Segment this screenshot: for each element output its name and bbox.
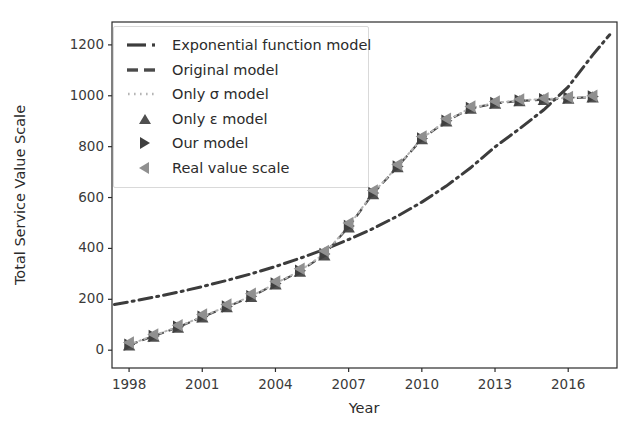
legend-item: Original model <box>122 58 360 83</box>
legend-label-our-model: Our model <box>168 135 248 151</box>
dash-dot-line-icon <box>122 35 168 55</box>
legend-label-real-value: Real value scale <box>168 160 289 176</box>
y-tick-label: 1000 <box>58 87 104 103</box>
y-axis-label: Total Service Value Scale <box>12 105 28 285</box>
chart-figure: Total Service Value Scale Year 020040060… <box>0 0 641 431</box>
legend-item: Only σ model <box>122 82 360 107</box>
y-tick-label: 200 <box>58 290 104 306</box>
y-tick-label: 0 <box>58 341 104 357</box>
triangle-right-marker-icon <box>122 133 168 153</box>
dotted-line-icon <box>122 84 168 104</box>
x-tick-label: 2016 <box>538 376 598 392</box>
legend-label-original: Original model <box>168 62 279 78</box>
legend-label-epsilon: Only ε model <box>168 111 267 127</box>
x-axis-label: Year <box>349 400 380 416</box>
x-tick-label: 2010 <box>392 376 452 392</box>
y-tick-label: 400 <box>58 239 104 255</box>
triangle-left-marker-icon <box>122 158 168 178</box>
x-tick-label: 2007 <box>319 376 379 392</box>
x-tick-label: 1998 <box>99 376 159 392</box>
legend-label-sigma: Only σ model <box>168 86 269 102</box>
y-tick-label: 1200 <box>58 36 104 52</box>
x-tick-label: 2004 <box>245 376 305 392</box>
triangle-up-marker-icon <box>122 109 168 129</box>
legend-item: Real value scale <box>122 156 360 181</box>
y-tick-label: 800 <box>58 138 104 154</box>
legend-label-exponential: Exponential function model <box>168 37 371 53</box>
legend-item: Only ε model <box>122 107 360 132</box>
x-tick-label: 2013 <box>465 376 525 392</box>
x-axis-label-container: Year <box>110 398 618 417</box>
legend-item: Our model <box>122 131 360 156</box>
y-axis-label-container: Total Service Value Scale <box>0 0 40 390</box>
chart-legend: Exponential function model Original mode… <box>113 26 369 188</box>
y-tick-label: 600 <box>58 189 104 205</box>
x-tick-label: 2001 <box>172 376 232 392</box>
legend-item: Exponential function model <box>122 33 360 58</box>
dashed-line-icon <box>122 60 168 80</box>
